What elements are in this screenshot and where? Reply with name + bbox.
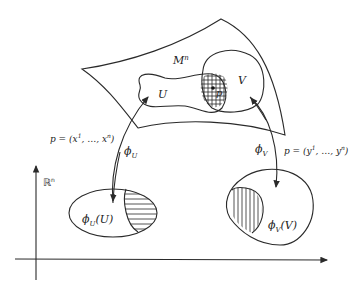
image-u-label: ϕU(U) bbox=[82, 213, 113, 228]
coords-y-label: p = (y1, …, yn) bbox=[284, 144, 349, 156]
image-v-label: ϕV(V) bbox=[268, 219, 297, 234]
arrow-phi-v-up bbox=[251, 98, 266, 120]
image-v-region bbox=[226, 169, 313, 245]
region-u-label: U bbox=[158, 88, 168, 101]
manifold-region bbox=[82, 19, 285, 135]
region-u bbox=[139, 74, 226, 113]
point-p bbox=[211, 86, 215, 90]
region-v-label: V bbox=[238, 74, 247, 87]
phi-u-label: ϕU bbox=[124, 145, 139, 160]
space-label: ℝn bbox=[43, 176, 55, 188]
chart-diagram: Mn U V p p = (x1, …, xn) p = (y1, …, yn)… bbox=[0, 0, 359, 295]
arrow-phi-v bbox=[250, 97, 277, 187]
manifold-label: Mn bbox=[172, 54, 189, 67]
phi-v-label: ϕV bbox=[255, 143, 269, 158]
coords-x-label: p = (x1, …, xn) bbox=[50, 132, 115, 144]
point-label: p bbox=[216, 87, 223, 98]
